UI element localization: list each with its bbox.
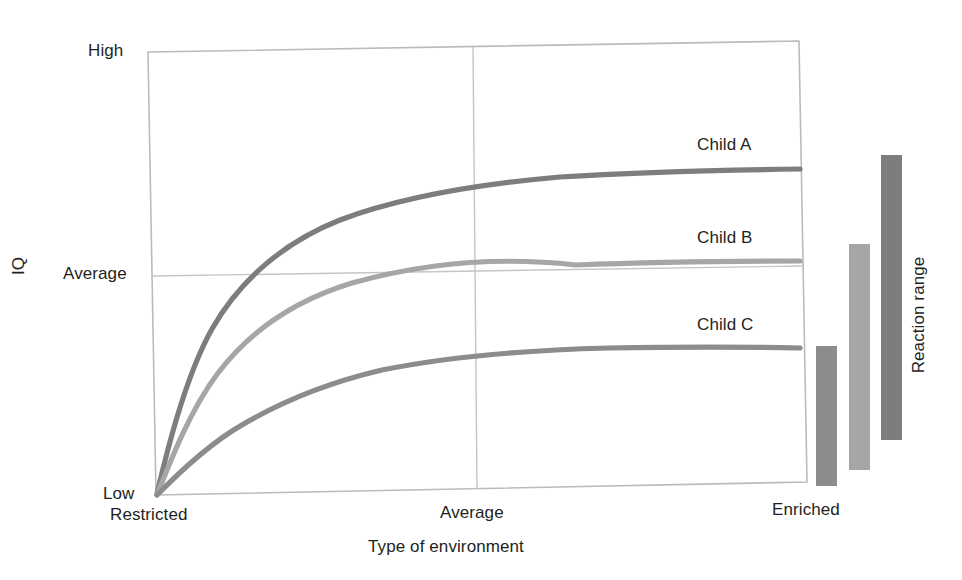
y-axis-title: IQ	[9, 257, 29, 275]
curve-label-child-a: Child A	[697, 135, 752, 155]
x-tick-label-average: Average	[440, 503, 504, 523]
reaction-range-bar-child-b	[849, 244, 870, 470]
curve-child-b	[157, 261, 800, 495]
y-tick-label-high: High	[88, 41, 123, 61]
gridline-horizontal-average	[152, 266, 803, 276]
reaction-range-bar-child-a	[881, 155, 902, 440]
reaction-range-bar-child-c	[816, 346, 837, 486]
reaction-range-title: Reaction range	[909, 257, 929, 374]
curve-child-c	[157, 347, 800, 495]
x-tick-label-enriched: Enriched	[772, 500, 840, 520]
y-tick-label-average: Average	[63, 264, 127, 284]
x-axis-title: Type of environment	[368, 537, 524, 557]
reaction-range-chart: IQ High Average Low Restricted Average E…	[0, 0, 962, 580]
y-tick-label-low: Low	[103, 484, 135, 504]
curve-label-child-b: Child B	[697, 228, 753, 248]
gridline-vertical-average	[473, 47, 477, 489]
curve-label-child-c: Child C	[697, 315, 753, 335]
chart-canvas	[0, 0, 962, 580]
x-tick-label-restricted: Restricted	[110, 505, 188, 525]
